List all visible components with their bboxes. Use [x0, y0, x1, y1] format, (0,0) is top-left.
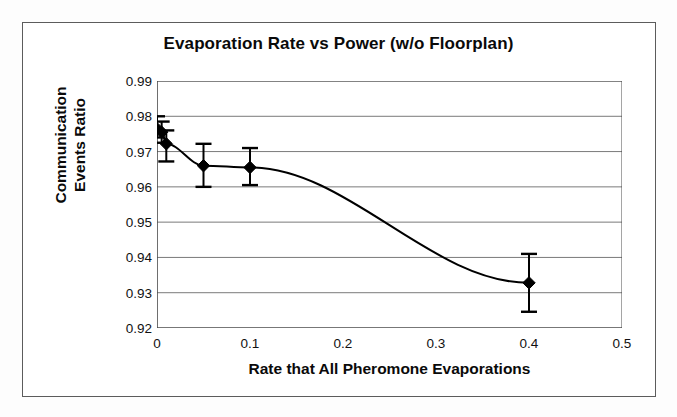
- data-point-marker: [197, 159, 209, 171]
- y-axis-tick-label: 0.98: [106, 109, 152, 124]
- y-axis-tick-label: 0.95: [106, 215, 152, 230]
- y-axis-tick-label: 0.97: [106, 144, 152, 159]
- x-axis-title: Rate that All Pheromone Evaporations: [157, 360, 622, 378]
- x-axis-tick-label: 0.5: [602, 336, 642, 351]
- y-axis-title-line1: Communication: [51, 15, 70, 275]
- y-axis-tick-label: 0.93: [106, 285, 152, 300]
- x-axis-tick-label: 0.3: [416, 336, 456, 351]
- x-axis-tick-label: 0.4: [509, 336, 549, 351]
- y-axis-tick-label: 0.94: [106, 250, 152, 265]
- y-axis-title: Communication Events Ratio: [51, 15, 89, 275]
- plot-area: [157, 81, 622, 328]
- x-axis-tick-label: 0: [137, 336, 177, 351]
- data-point-marker: [244, 161, 256, 173]
- y-axis-tick-label: 0.99: [106, 74, 152, 89]
- chart-title: Evaporation Rate vs Power (w/o Floorplan…: [0, 34, 677, 54]
- y-axis-tick-label: 0.92: [106, 321, 152, 336]
- x-axis-tick-label: 0.1: [230, 336, 270, 351]
- x-axis-tick-label: 0.2: [323, 336, 363, 351]
- data-point-marker: [523, 277, 535, 289]
- y-axis-title-line2: Events Ratio: [70, 15, 89, 275]
- y-axis-tick-labels: 0.990.980.970.960.950.940.930.92: [104, 81, 152, 328]
- y-axis-tick-label: 0.96: [106, 179, 152, 194]
- plot-svg: [157, 81, 622, 328]
- chart-figure: Evaporation Rate vs Power (w/o Floorplan…: [0, 0, 677, 417]
- x-axis-tick-labels: 00.10.20.30.40.5: [157, 336, 622, 356]
